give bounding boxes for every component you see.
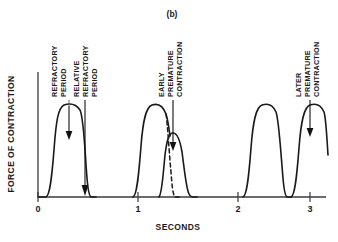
relative-refractory-period-arrowhead	[82, 185, 89, 196]
early-premature-contraction-arrowhead	[170, 142, 177, 151]
later-premature-contraction-line-1: LATER	[294, 72, 303, 97]
refractory-period-line-2: PERIOD	[59, 68, 68, 97]
figure-panel: (b) 0 1 2 3 SECONDS FORCE OF CONTRACTION	[0, 0, 338, 242]
x-tick-label-0: 0	[35, 204, 40, 214]
refractory-period-arrowhead	[66, 131, 73, 140]
later-premature-contraction-arrowhead	[307, 128, 314, 137]
trace-normal-contraction-1	[38, 104, 96, 197]
relative-refractory-period-line-3: PERIOD	[90, 68, 99, 97]
early-premature-contraction-line-2: PREMATURE	[166, 50, 175, 97]
annotation-refractory-period: REFRACTORY PERIOD	[50, 45, 72, 140]
annotation-later-premature-contraction: LATER PREMATURE CONTRACTION	[294, 42, 321, 137]
x-axis-title: SECONDS	[156, 222, 201, 232]
contraction-force-chart: (b) 0 1 2 3 SECONDS FORCE OF CONTRACTION	[0, 0, 338, 242]
trace-early-premature-contraction	[159, 133, 197, 197]
later-premature-contraction-line-3: CONTRACTION	[312, 42, 321, 97]
early-premature-contraction-line-3: CONTRACTION	[175, 42, 184, 97]
x-tick-label-2: 2	[235, 204, 240, 214]
early-premature-contraction-line-1: EARLY	[157, 72, 166, 97]
later-premature-contraction-line-2: PREMATURE	[303, 50, 312, 97]
trace-normal-contraction-2	[133, 104, 170, 197]
annotation-relative-refractory-period: RELATIVE REFRACTORY PERIOD	[72, 45, 99, 196]
y-axis-title: FORCE OF CONTRACTION	[6, 75, 16, 192]
refractory-period-line-1: REFRACTORY	[50, 45, 59, 97]
relative-refractory-period-line-2: REFRACTORY	[81, 45, 90, 97]
panel-caption: (b)	[167, 9, 178, 19]
trace-normal-contraction-3	[243, 104, 291, 197]
x-tick-label-1: 1	[135, 204, 140, 214]
relative-refractory-period-line-1: RELATIVE	[72, 60, 81, 97]
x-tick-label-3: 3	[307, 204, 312, 214]
